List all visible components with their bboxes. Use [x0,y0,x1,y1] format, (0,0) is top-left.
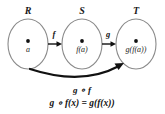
arrow-f-head [57,41,63,46]
arrow-composition [30,63,124,77]
element-label-r: a [26,45,30,54]
arrow-g-head [111,41,117,46]
element-label-s: f(a) [76,45,88,54]
set-group-r: R a [8,5,48,69]
set-ellipse-s [62,19,102,69]
diagram-canvas: R a S f(a) T g(f(a)) f g [0,0,165,114]
element-dot-t [134,39,138,43]
arrow-g-label: g [105,29,111,39]
set-group-t: T g(f(a)) [116,5,156,69]
arrow-f: f [48,29,62,47]
set-label-s: S [79,5,85,16]
set-label-r: R [24,5,32,16]
composition-formula: g ∘ f(x) = g(f(x)) [48,98,114,109]
element-dot-s [80,39,84,43]
element-label-t: g(f(a)) [126,45,147,54]
set-ellipse-t [116,19,156,69]
set-ellipse-r [8,19,48,69]
function-composition-diagram: R a S f(a) T g(f(a)) f g [0,0,165,114]
composition-label: g ∘ f [72,85,92,95]
set-label-t: T [133,5,140,16]
arrow-f-label: f [53,29,57,39]
arrow-g: g [102,29,116,47]
set-group-s: S f(a) [62,5,102,69]
element-dot-r [26,39,30,43]
